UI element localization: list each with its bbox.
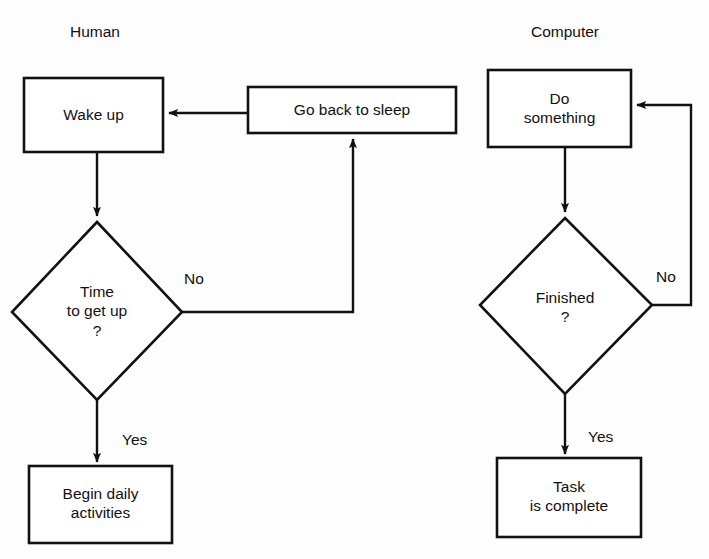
node-finished[interactable]: [480, 218, 652, 394]
edge-label-finished-yes: Yes: [588, 428, 613, 446]
edge-label-finished-no: No: [656, 268, 676, 286]
node-wake-up[interactable]: [24, 78, 163, 152]
column-title-human: Human: [45, 23, 145, 41]
node-time-to-get-up[interactable]: [12, 222, 182, 400]
node-go-back-sleep[interactable]: [248, 87, 456, 133]
node-begin-daily[interactable]: [29, 466, 172, 543]
node-task-complete[interactable]: [497, 458, 641, 537]
edge-decision-no: [182, 139, 353, 312]
edge-label-decision-yes: Yes: [122, 431, 147, 449]
flowchart-canvas: Human Computer Wake up Go back to sleep …: [0, 0, 709, 559]
node-do-something[interactable]: [488, 70, 631, 147]
column-title-computer: Computer: [512, 23, 618, 41]
edge-label-decision-no: No: [184, 270, 204, 288]
